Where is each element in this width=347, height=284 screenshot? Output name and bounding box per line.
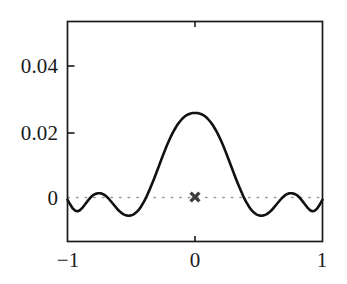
chart-figure: 0.04 0.02 0 −1 0 1 [0, 0, 347, 284]
x-tick-label-1: 1 [317, 250, 328, 271]
x-tick-label-minus-1: −1 [57, 250, 80, 271]
y-tick-label-0.04: 0.04 [6, 56, 58, 77]
y-tick-label-0: 0 [6, 188, 58, 209]
x-tick-label-0: 0 [190, 250, 201, 271]
y-tick-label-0.02: 0.02 [6, 123, 58, 144]
plot-background [68, 22, 323, 242]
